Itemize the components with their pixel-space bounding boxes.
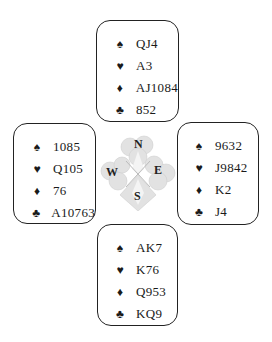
spade-icon: ♠ xyxy=(192,139,206,154)
club-icon: ♣ xyxy=(113,307,127,322)
west-diamonds-row: ♦76 xyxy=(30,180,95,202)
spade-icon: ♠ xyxy=(113,241,127,256)
east-clubs-row: ♣J4 xyxy=(192,201,258,223)
north-hand: ♠QJ4 ♥A3 ♦AJ1084 ♣852 xyxy=(96,20,179,122)
east-hand: ♠9632 ♥J9842 ♦K2 ♣J4 xyxy=(177,122,259,225)
west-clubs: A10763 xyxy=(51,205,95,221)
north-diamonds-row: ♦AJ1084 xyxy=(113,77,178,99)
north-clubs-row: ♣852 xyxy=(113,99,178,121)
north-hearts: A3 xyxy=(136,58,153,74)
north-spades: QJ4 xyxy=(136,36,158,52)
east-spades: 9632 xyxy=(215,138,242,154)
east-diamonds-row: ♦K2 xyxy=(192,179,258,201)
south-clubs-row: ♣KQ9 xyxy=(113,303,177,325)
west-hearts: Q105 xyxy=(53,161,83,177)
club-icon: ♣ xyxy=(30,206,42,221)
west-diamonds: 76 xyxy=(53,183,67,199)
diamond-icon: ♦ xyxy=(30,184,44,199)
club-icon: ♣ xyxy=(192,205,206,220)
south-hearts-row: ♥K76 xyxy=(113,259,177,281)
club-icon: ♣ xyxy=(113,103,127,118)
south-diamonds: Q953 xyxy=(136,284,166,300)
compass-west-label: W xyxy=(106,165,118,180)
west-spades-row: ♠1085 xyxy=(30,136,95,158)
east-spades-row: ♠9632 xyxy=(192,135,258,157)
north-clubs: 852 xyxy=(136,102,156,118)
south-diamonds-row: ♦Q953 xyxy=(113,281,177,303)
south-spades-row: ♠AK7 xyxy=(113,237,177,259)
diamond-icon: ♦ xyxy=(113,81,127,96)
compass-north-label: N xyxy=(134,137,143,152)
spade-icon: ♠ xyxy=(30,140,44,155)
diamond-icon: ♦ xyxy=(113,285,127,300)
compass-east-label: E xyxy=(154,163,162,178)
compass-south-label: S xyxy=(134,189,141,204)
east-hearts: J9842 xyxy=(215,160,248,176)
north-hearts-row: ♥A3 xyxy=(113,55,178,77)
west-hand: ♠1085 ♥Q105 ♦76 ♣A10763 xyxy=(13,123,96,224)
east-clubs: J4 xyxy=(215,204,227,220)
heart-icon: ♥ xyxy=(113,263,127,278)
west-hearts-row: ♥Q105 xyxy=(30,158,95,180)
heart-icon: ♥ xyxy=(113,59,127,74)
north-diamonds: AJ1084 xyxy=(136,80,178,96)
north-spades-row: ♠QJ4 xyxy=(113,33,178,55)
west-spades: 1085 xyxy=(53,139,80,155)
south-hearts: K76 xyxy=(136,262,159,278)
east-diamonds: K2 xyxy=(215,182,232,198)
south-hand: ♠AK7 ♥K76 ♦Q953 ♣KQ9 xyxy=(97,224,178,326)
west-clubs-row: ♣A10763 xyxy=(30,202,95,224)
south-clubs: KQ9 xyxy=(136,306,162,322)
south-spades: AK7 xyxy=(136,240,162,256)
spade-icon: ♠ xyxy=(113,37,127,52)
diamond-icon: ♦ xyxy=(192,183,206,198)
east-hearts-row: ♥J9842 xyxy=(192,157,258,179)
compass-rose: N W E S xyxy=(100,135,176,211)
heart-icon: ♥ xyxy=(192,161,206,176)
heart-icon: ♥ xyxy=(30,162,44,177)
